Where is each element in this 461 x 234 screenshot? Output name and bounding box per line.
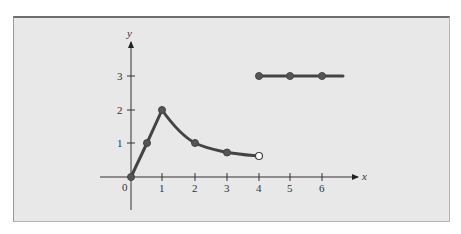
point-6-3 [319,73,326,80]
point-1-2 [159,107,166,114]
x-tick-label-2: 2 [192,182,198,194]
y-tick-label-3: 3 [117,70,123,82]
x-tick-label-6: 6 [319,182,325,194]
y-tick-label-2: 2 [117,104,123,116]
point-5-3 [287,73,294,80]
point-0.5-1 [144,140,151,147]
x-tick-label-origin: 0 [122,181,128,193]
x-tick-label-3: 3 [224,182,230,194]
data-points [128,73,326,181]
x-axis-label: x [361,170,367,182]
chart-plot: x y 0 1 2 3 4 5 6 1 2 3 [0,0,461,234]
point-0-0 [128,174,135,181]
x-tick-label-4: 4 [256,182,262,194]
point-4-3 [256,73,263,80]
x-tick-label-5: 5 [287,182,293,194]
point-2-1 [192,140,199,147]
y-axis-label: y [126,27,132,39]
open-point-4-0.5 [256,153,263,160]
y-tick-label-1: 1 [117,137,123,149]
x-tick-label-1: 1 [159,182,165,194]
point-3-0.67 [224,149,231,156]
series-reciprocal-piece [162,110,259,156]
